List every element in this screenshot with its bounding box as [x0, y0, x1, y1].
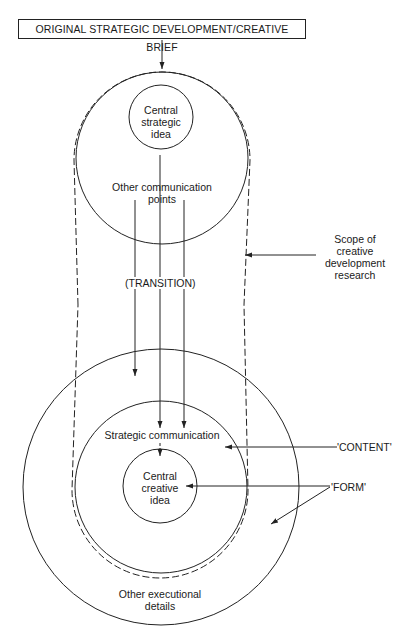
transition-label: (TRANSITION) [125, 277, 195, 289]
strategic-communication-label: Strategic communication [95, 429, 229, 441]
other-communication-points-label: Other communication points [102, 181, 222, 205]
central-creative-idea-label: Central creative idea [132, 470, 188, 506]
top-outer-circle [76, 72, 248, 244]
form-arrow-outer [271, 487, 330, 524]
creative-brief-box: ORIGINAL STRATEGIC DEVELOPMENT/CREATIVE … [18, 19, 306, 39]
diagram-canvas [0, 0, 404, 637]
form-annotation: 'FORM' [331, 481, 381, 493]
central-strategic-idea-label: Central strategic idea [131, 104, 191, 140]
scope-label: Scope of creative development research [316, 233, 394, 281]
other-executional-details-label: Other executional details [105, 588, 215, 612]
content-annotation: 'CONTENT' [337, 441, 397, 453]
